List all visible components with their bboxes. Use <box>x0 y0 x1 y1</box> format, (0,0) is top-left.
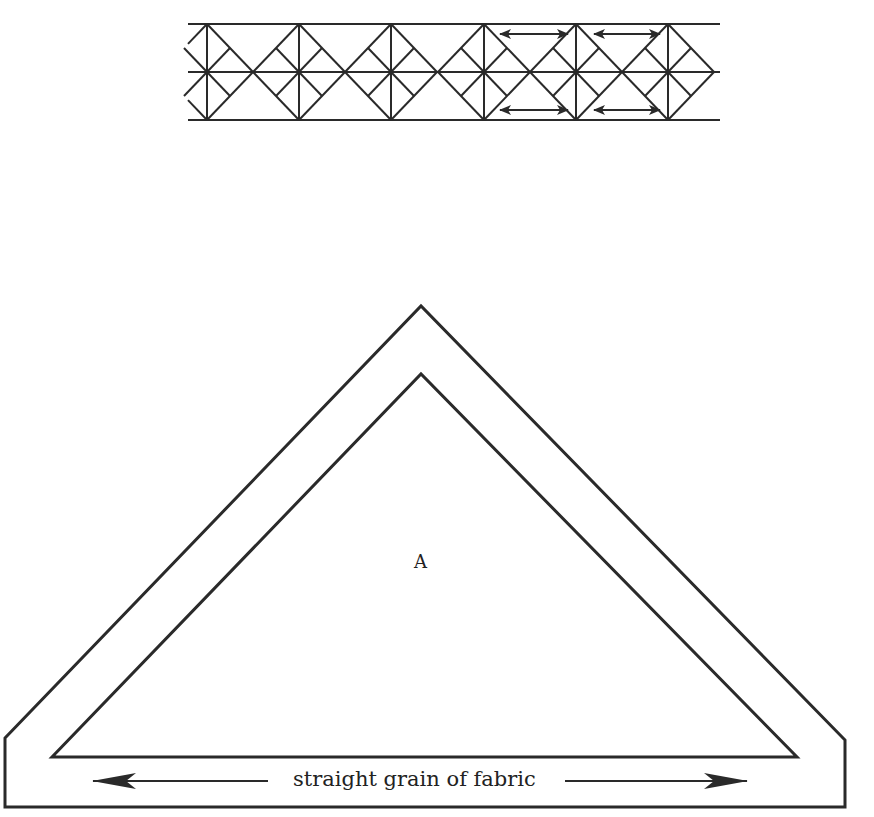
inner-line <box>391 72 414 96</box>
inner-line <box>576 72 599 96</box>
inner-line <box>184 72 207 96</box>
inner-line <box>576 48 599 72</box>
diagram-canvas <box>0 0 874 817</box>
inner-line <box>461 72 484 96</box>
inner-line <box>299 72 322 96</box>
inner-line <box>391 48 414 72</box>
inner-line <box>368 48 391 72</box>
inner-line <box>207 48 230 72</box>
inner-line <box>276 72 299 96</box>
diamond-edge <box>188 100 207 120</box>
inner-line <box>484 72 507 96</box>
inner-line <box>299 48 322 72</box>
inner-line <box>668 72 691 96</box>
inner-line <box>461 48 484 72</box>
inner-line <box>553 48 576 72</box>
inner-line <box>368 72 391 96</box>
inner-line <box>276 48 299 72</box>
inner-line <box>484 48 507 72</box>
grain-label: straight grain of fabric <box>293 767 536 791</box>
inner-line <box>668 48 691 72</box>
inner-line <box>645 72 668 96</box>
inner-line <box>553 72 576 96</box>
inner-line <box>645 48 668 72</box>
inner-line <box>184 48 207 72</box>
border-strip <box>184 24 720 120</box>
diamond-edge <box>188 24 207 44</box>
inner-line <box>207 72 230 96</box>
piece-label: A <box>414 551 427 572</box>
